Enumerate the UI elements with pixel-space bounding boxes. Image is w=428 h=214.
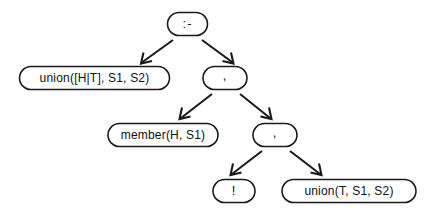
- edge-comma1-to-member: [180, 94, 213, 119]
- node-cut-goal[interactable]: !: [213, 180, 255, 203]
- tree-diagram-svg: :- union([H|T], S1, S2) , member(H, S1) …: [0, 0, 428, 214]
- node-clause-operator[interactable]: :-: [168, 13, 208, 36]
- node-label-conjunction-2: ,: [273, 125, 278, 140]
- node-conjunction-2[interactable]: ,: [253, 124, 297, 147]
- tree-diagram-canvas: :- union([H|T], S1, S2) , member(H, S1) …: [0, 0, 428, 214]
- node-conjunction-1[interactable]: ,: [203, 67, 247, 90]
- node-label-conjunction-1: ,: [223, 68, 228, 83]
- edge-root-to-comma1: [202, 40, 234, 64]
- node-label-union-tail: union(T, S1, S2): [304, 184, 393, 198]
- node-union-tail[interactable]: union(T, S1, S2): [282, 180, 416, 203]
- edge-group: [141, 40, 322, 175]
- edge-comma2-to-cut: [231, 151, 263, 175]
- node-member-goal[interactable]: member(H, S1): [108, 124, 218, 147]
- node-union-head[interactable]: union([H|T], S1, S2): [20, 67, 170, 90]
- edge-comma1-to-comma2: [240, 94, 272, 119]
- node-label-union-head: union([H|T], S1, S2): [40, 71, 150, 85]
- node-label-clause-operator: :-: [183, 16, 193, 31]
- node-label-member-goal: member(H, S1): [121, 128, 206, 142]
- edge-root-to-union-head: [141, 40, 173, 64]
- node-label-cut-goal: !: [232, 183, 237, 198]
- edge-comma2-to-union-tail: [290, 151, 322, 175]
